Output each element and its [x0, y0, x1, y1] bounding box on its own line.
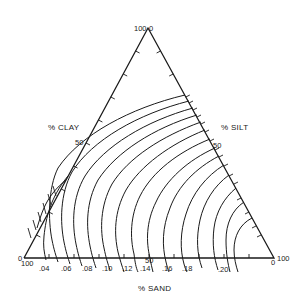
contour-2	[50, 95, 185, 262]
ternary-diagram: 100 0 0 100 0 100 50 50 50 % CLAY % SILT…	[0, 0, 302, 307]
contour-3	[62, 101, 189, 264]
bottom-right-vertex-right-label: 100	[277, 254, 290, 263]
clay-axis-title: % CLAY	[48, 123, 80, 132]
contour-15	[234, 218, 252, 272]
contour-value-labels: .04 .06 .08 .10 .12 .14 .16 .18 .20	[39, 264, 228, 274]
contour-label: .10	[102, 264, 112, 273]
clay-axis-50-label: 50	[75, 138, 83, 147]
contour-label: .18	[182, 264, 192, 273]
contour-lines	[37, 95, 252, 272]
contour-1	[44, 176, 68, 260]
bottom-right-vertex-bottom-label: 0	[271, 258, 275, 267]
contour-label: .04	[39, 264, 49, 273]
contour-label: .14	[140, 264, 150, 273]
contour-label: .16	[162, 264, 172, 273]
contour-label: .20	[218, 265, 228, 274]
contour-label: .12	[122, 264, 132, 273]
top-vertex-left-label: 100	[134, 24, 147, 33]
silt-axis-title: % SILT	[221, 123, 248, 132]
contour-9	[148, 148, 215, 272]
silt-axis-50-label: 50	[213, 141, 221, 150]
contour-label: .08	[82, 264, 92, 273]
contour-label: .06	[61, 264, 71, 273]
contour-11	[181, 165, 224, 272]
contour-10	[163, 156, 219, 272]
clay-axis-ticks	[28, 51, 140, 238]
silt-axis-ticks	[157, 51, 261, 237]
bottom-left-vertex-bottom-label: 100	[21, 259, 34, 268]
top-vertex-right-label: 0	[149, 24, 153, 33]
sand-axis-title: % SAND	[138, 284, 171, 293]
